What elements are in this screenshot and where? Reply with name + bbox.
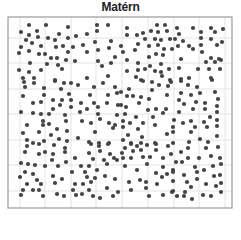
data-point [198,91,202,95]
data-point [66,50,70,54]
data-point [218,173,222,177]
data-point [190,197,194,201]
data-point [37,188,41,192]
data-point [153,37,157,41]
data-point [92,85,96,89]
data-point [198,137,202,141]
data-point [187,140,191,144]
data-point [191,107,195,111]
data-point [83,170,87,174]
data-point [162,47,166,51]
data-point [56,63,60,67]
data-point [155,182,159,186]
data-point [219,190,223,194]
data-point [79,101,83,105]
data-point [135,144,139,148]
data-point [102,158,106,162]
data-point [109,61,113,65]
data-point [51,98,55,102]
data-point [31,188,35,192]
data-point [63,150,67,154]
data-point [39,182,43,186]
data-point [187,44,191,48]
data-point [51,107,55,111]
data-point [153,123,157,127]
data-point [203,101,207,105]
data-point [210,78,214,82]
data-point [121,125,125,129]
data-point [106,93,110,97]
data-point [141,155,145,159]
data-point [209,56,213,60]
data-point [111,126,115,130]
data-point [173,37,177,41]
data-point [119,103,123,107]
data-point [136,42,140,46]
data-point [166,84,170,88]
data-point [165,172,169,176]
data-point [55,127,59,131]
data-point [140,135,144,139]
data-point [219,162,223,166]
data-point [41,119,45,123]
data-point [141,79,145,83]
data-point [87,164,91,168]
data-point [57,32,61,36]
data-point [23,85,27,89]
data-point [161,111,165,115]
data-point [125,58,129,62]
data-point [49,133,53,137]
data-point [159,62,163,66]
data-point [206,140,210,144]
data-point [125,26,129,30]
data-point [215,118,219,122]
data-point [98,117,102,121]
data-point [80,192,84,196]
data-point [143,37,147,41]
data-point [19,45,23,49]
data-point [69,105,73,109]
data-point [93,40,97,44]
data-point [179,150,183,154]
data-point [25,144,29,148]
data-point [93,176,97,180]
data-point [55,56,59,60]
data-points [17,23,225,201]
data-point [85,107,89,111]
data-point [129,142,133,146]
data-point [121,119,125,123]
data-point [106,142,110,146]
data-point [89,142,93,146]
data-point [27,23,31,27]
data-point [96,59,100,63]
data-point [177,98,181,102]
data-point [108,152,112,156]
data-point [17,68,21,72]
data-point [31,101,35,105]
data-point [51,152,55,156]
data-point [185,180,189,184]
data-point [42,139,46,143]
data-point [53,181,57,185]
data-point [216,97,220,101]
data-point [95,29,99,33]
data-point [164,107,168,111]
data-point [89,180,93,184]
data-point [139,148,143,152]
data-point [35,29,39,33]
data-point [93,130,97,134]
data-point [32,81,36,85]
data-point [47,112,51,116]
data-point [36,35,40,39]
data-point [27,70,31,74]
data-point [73,59,77,63]
data-point [63,146,67,150]
data-point [42,86,46,90]
data-point [194,100,198,104]
data-point [180,160,184,164]
data-point [123,112,127,116]
data-point [85,175,89,179]
data-point [50,158,54,162]
data-point [218,67,222,71]
data-point [27,49,31,53]
